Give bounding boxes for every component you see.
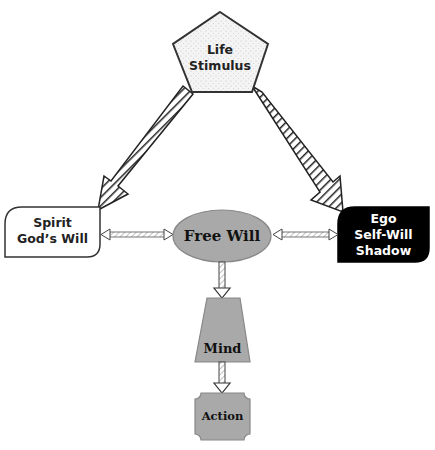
arrow-mind-to-action — [214, 362, 230, 393]
free-will-label: Free Will — [173, 226, 271, 246]
arrow-freewill-ego — [273, 229, 338, 240]
spirit-label: Spirit God’s Will — [5, 215, 100, 247]
mind-label: Mind — [195, 340, 250, 358]
life-stimulus-label: Life Stimulus — [170, 42, 270, 74]
arrow-stimulus-to-ego — [252, 86, 343, 212]
arrow-stimulus-to-spirit — [98, 86, 193, 210]
ego-label: Ego Self-Will Shadow — [338, 211, 429, 259]
action-label: Action — [195, 407, 250, 425]
arrow-freewill-to-mind — [214, 262, 230, 298]
arrow-freewill-spirit — [101, 229, 173, 240]
